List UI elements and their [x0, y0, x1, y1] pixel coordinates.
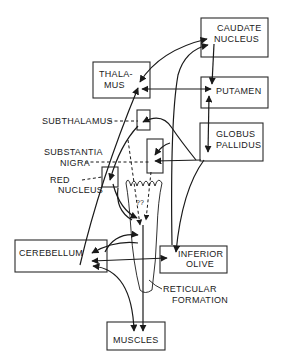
path-globus-substantia — [155, 160, 201, 161]
olive-label-2: OLIVE — [186, 259, 214, 269]
caudate-label-2: NUCLEUS — [214, 34, 259, 44]
node-muscles: MUSCLES — [107, 322, 165, 350]
node-caudate-nucleus: CAUDATE NUCLEUS — [201, 18, 268, 57]
path-reticular-cerebellum-1 — [92, 242, 138, 253]
node-substantia-nigra-box — [147, 139, 163, 173]
path-dashed-substantia-reticular — [146, 172, 151, 220]
red-nucleus-callout-2: NUCLEUS — [58, 185, 103, 195]
node-globus-pallidus: GLOBUS PALLIDUS — [200, 123, 263, 161]
path-putamen-globus — [208, 96, 209, 152]
reticular-callout-1: RETICULAR — [163, 284, 217, 294]
cerebellum-label: CEREBELLUM — [19, 248, 83, 258]
path-cerebellum-thalamus — [80, 88, 138, 265]
thalamus-label-2: MUS — [104, 80, 125, 90]
path-cerebellum-muscles — [93, 266, 134, 331]
olive-label-1: INFERIOR — [178, 249, 224, 259]
muscles-label: MUSCLES — [113, 335, 159, 345]
substantia-callout-1: SUBSTANTIA — [44, 147, 103, 157]
putamen-label: PUTAMEN — [216, 86, 261, 96]
reticular-leader — [149, 280, 162, 289]
path-caudate-putamen — [212, 44, 214, 84]
path-subthalamus-red — [110, 126, 138, 180]
path-olive-caudate — [172, 45, 208, 245]
substantia-callout-2: NIGRA — [60, 158, 90, 168]
node-inferior-olive: INFERIOR OLIVE — [160, 246, 227, 273]
globus-label-1: GLOBUS — [216, 129, 255, 139]
subthalamus-callout: SUBTHALAMUS — [42, 116, 113, 126]
motor-pathway-diagram: CAUDATE NUCLEUS THALA- MUS PUTAMEN GLOBU… — [0, 0, 284, 359]
caudate-label-1: CAUDATE — [217, 23, 261, 33]
path-globus-olive — [176, 160, 204, 252]
red-nucleus-leader — [82, 177, 102, 180]
node-cerebellum: CEREBELLUM — [15, 240, 107, 272]
thalamus-label-1: THALA- — [99, 69, 133, 79]
red-nucleus-callout-1: RED — [50, 175, 70, 185]
node-putamen: PUTAMEN — [201, 77, 268, 108]
reticular-formation-outline — [126, 180, 162, 292]
reticular-callout-2: FORMATION — [172, 295, 228, 305]
path-red-reticular — [113, 184, 137, 218]
globus-label-2: PALLIDUS — [216, 140, 261, 150]
